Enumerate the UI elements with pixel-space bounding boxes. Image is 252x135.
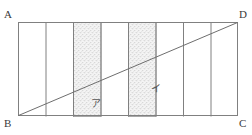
vertex-label-b: B xyxy=(4,118,11,129)
shaded-regions-group xyxy=(74,23,157,117)
vertex-label-a: A xyxy=(4,9,12,20)
vertex-label-d: D xyxy=(239,9,247,20)
region-label-i: イ xyxy=(151,84,161,94)
geometry-figure: A D B C ア イ xyxy=(0,0,252,135)
region-label-a: ア xyxy=(91,99,101,109)
vertex-label-c: C xyxy=(239,118,246,129)
shaded-strip xyxy=(129,23,157,117)
vertical-dividers-group xyxy=(46,23,211,117)
figure-canvas xyxy=(0,0,252,135)
